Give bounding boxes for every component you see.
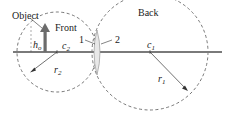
surface-1-label: 1	[79, 34, 84, 45]
thick-lens-diagram: Object Front Back 1 2 ho c2 c1 r2 r1	[0, 0, 230, 119]
radius-2-arrow	[30, 52, 57, 73]
radius-2-label: r2	[54, 64, 62, 77]
radius-1-arrow	[150, 52, 188, 91]
radius-1-label: r1	[158, 73, 165, 86]
surface-2-leader-line	[101, 40, 112, 44]
object-label: Object	[12, 10, 39, 21]
biconvex-lens	[94, 30, 100, 75]
object-height-label: ho	[33, 39, 42, 52]
back-label: Back	[138, 7, 159, 18]
surface-2-label: 2	[115, 34, 120, 45]
center-1-label: c1	[147, 39, 155, 52]
front-label: Front	[55, 22, 77, 33]
